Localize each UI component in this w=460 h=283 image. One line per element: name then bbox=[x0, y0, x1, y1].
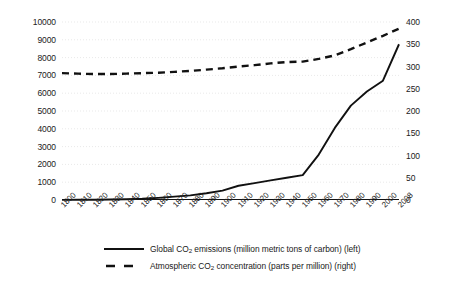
right-axis-tick-label: 300 bbox=[406, 62, 420, 72]
co2-chart: 1000090008000700060005000400030002000100… bbox=[0, 0, 460, 283]
left-axis-tick-label: 10000 bbox=[33, 17, 56, 27]
plot-area bbox=[62, 22, 399, 200]
right-axis-tick-label: 100 bbox=[406, 151, 420, 161]
left-axis-tick-label: 6000 bbox=[37, 88, 56, 98]
series-group bbox=[62, 22, 399, 200]
left-axis-tick-label: 2000 bbox=[37, 159, 56, 169]
chart-legend: Global CO2 emissions (million metric ton… bbox=[0, 240, 460, 274]
right-axis-tick-label: 350 bbox=[406, 39, 420, 49]
left-axis-tick-label: 4000 bbox=[37, 124, 56, 134]
legend-label-emissions: Global CO2 emissions (million metric ton… bbox=[150, 244, 360, 254]
left-axis-tick-label: 0 bbox=[51, 195, 56, 205]
right-axis-tick-label: 50 bbox=[406, 173, 415, 183]
right-axis-tick-label: 150 bbox=[406, 128, 420, 138]
left-axis-tick-label: 5000 bbox=[37, 106, 56, 116]
right-axis-tick-label: 200 bbox=[406, 106, 420, 116]
concentration-line bbox=[62, 29, 399, 74]
legend-item-concentration: Atmospheric CO2 concentration (parts per… bbox=[0, 257, 460, 274]
solid-line-swatch bbox=[104, 244, 144, 254]
left-axis-tick-label: 9000 bbox=[37, 35, 56, 45]
legend-item-emissions: Global CO2 emissions (million metric ton… bbox=[0, 240, 460, 257]
left-axis-tick-label: 1000 bbox=[37, 177, 56, 187]
dashed-line-swatch bbox=[104, 261, 144, 271]
legend-label-concentration: Atmospheric CO2 concentration (parts per… bbox=[150, 261, 356, 271]
left-axis-tick-label: 7000 bbox=[37, 70, 56, 80]
right-axis-tick-label: 400 bbox=[406, 17, 420, 27]
right-axis-tick-label: 250 bbox=[406, 84, 420, 94]
left-axis-tick-label: 8000 bbox=[37, 53, 56, 63]
left-axis-tick-label: 3000 bbox=[37, 142, 56, 152]
